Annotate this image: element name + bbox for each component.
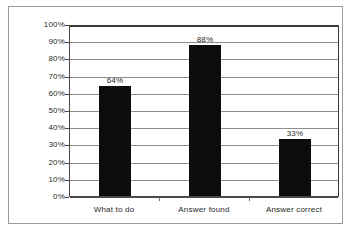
x-axis-tick-mark [249, 197, 250, 201]
y-axis-tick-label: 80% [13, 55, 65, 63]
figure-frame: 0%10%20%30%40%50%60%70%80%90%100% 64%88%… [8, 6, 343, 224]
bar [279, 139, 311, 196]
x-axis-tick-label: Answer found [152, 205, 256, 215]
plot-area: 64%88%33% [69, 25, 339, 197]
bar-value-label: 33% [273, 130, 317, 138]
y-axis-tick-label: 20% [13, 159, 65, 167]
y-axis-tick-label: 30% [13, 141, 65, 149]
y-axis-tick-label: 10% [13, 176, 65, 184]
y-axis-tick-label: 100% [13, 21, 65, 29]
y-axis: 0%10%20%30%40%50%60%70%80%90%100% [9, 25, 65, 197]
x-axis-tick-label: Answer correct [242, 205, 346, 215]
y-axis-tick-label: 70% [13, 73, 65, 81]
y-axis-tick-label: 40% [13, 124, 65, 132]
gridline [70, 197, 338, 198]
bar-value-label: 64% [93, 77, 137, 85]
x-axis-tick-mark [159, 197, 160, 201]
x-axis-tick-label: What to do [62, 205, 166, 215]
y-axis-tick-label: 60% [13, 90, 65, 98]
bar [99, 86, 131, 196]
x-axis: What to doAnswer foundAnswer correct [69, 201, 339, 219]
y-axis-tick-label: 90% [13, 38, 65, 46]
bar [189, 45, 221, 196]
y-axis-tick-mark [65, 197, 69, 198]
bar-value-label: 88% [183, 36, 227, 44]
y-axis-tick-label: 50% [13, 107, 65, 115]
gridline [70, 26, 338, 27]
y-axis-tick-label: 0% [13, 193, 65, 201]
